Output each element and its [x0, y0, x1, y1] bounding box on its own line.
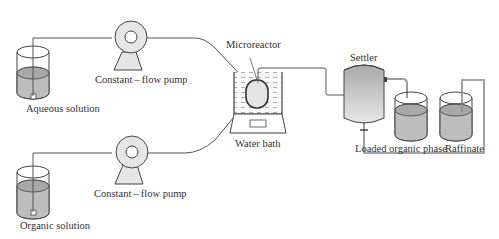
pump-base — [114, 52, 142, 70]
raffinate-label: Raffinate — [445, 143, 484, 154]
pump-rotor — [126, 146, 138, 158]
bottom-constant-flow-pump — [115, 136, 148, 184]
loaded-organic-phase-tank — [395, 92, 427, 141]
settler-vessel — [344, 65, 384, 123]
organic-solution-label: Organic solution — [20, 220, 91, 231]
extraction-process-diagram: Aqueous solution Constant – flow pump Mi… — [0, 0, 499, 239]
microreactor — [246, 80, 268, 108]
top-constant-flow-pump — [114, 21, 147, 70]
bath-control-panel — [250, 120, 266, 127]
water-bath-label: Water bath — [235, 138, 281, 149]
settler-label: Settler — [350, 52, 378, 63]
pump-rotor — [125, 31, 137, 43]
liquid-surface — [395, 104, 427, 116]
loaded-organic-phase-label: Loaded organic phase — [355, 143, 447, 154]
top-pump-label: Constant – flow pump — [95, 74, 188, 85]
bottom-pump-label: Constant – flow pump — [94, 188, 187, 199]
settler — [344, 65, 387, 138]
microreactor-label: Microreactor — [226, 39, 281, 50]
settler-side-valve — [384, 77, 387, 82]
raffinate-tank — [440, 92, 472, 141]
aqueous-solution-label: Aqueous solution — [26, 103, 101, 114]
liquid-surface — [440, 104, 472, 116]
